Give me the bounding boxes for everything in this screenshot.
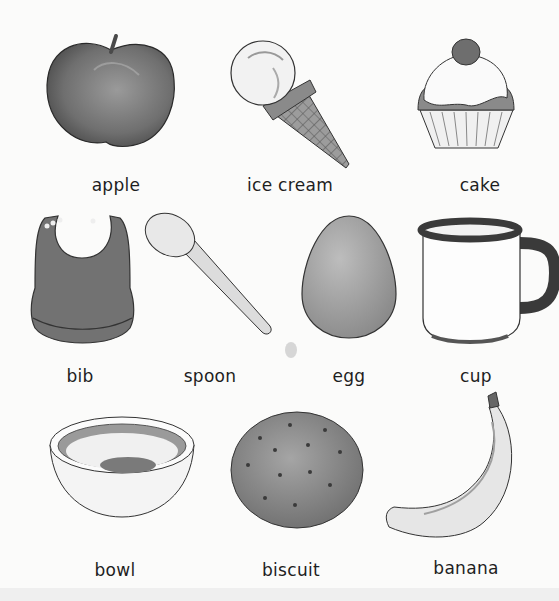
cupcake-icon	[410, 30, 522, 150]
bowl-icon	[48, 415, 196, 520]
item-label-spoon: spoon	[184, 366, 237, 386]
item-label-cake: cake	[460, 175, 501, 195]
item-label-bib: bib	[66, 366, 93, 386]
cup-icon	[420, 218, 555, 346]
item-label-ice-cream: ice cream	[247, 175, 333, 195]
item-label-bowl: bowl	[94, 560, 135, 580]
banana-icon	[384, 392, 529, 542]
page-edge-shadow	[0, 588, 559, 601]
crumb-speck	[283, 340, 299, 360]
apple-icon	[44, 30, 179, 150]
egg-icon	[300, 214, 398, 340]
item-label-egg: egg	[333, 366, 366, 386]
item-label-biscuit: biscuit	[262, 560, 320, 580]
biscuit-icon	[230, 410, 365, 530]
ice-cream-icon	[218, 28, 353, 173]
spoon-icon	[142, 210, 277, 340]
item-label-cup: cup	[460, 366, 492, 386]
item-label-banana: banana	[433, 558, 498, 578]
bib-icon	[30, 208, 135, 348]
item-label-apple: apple	[92, 175, 141, 195]
